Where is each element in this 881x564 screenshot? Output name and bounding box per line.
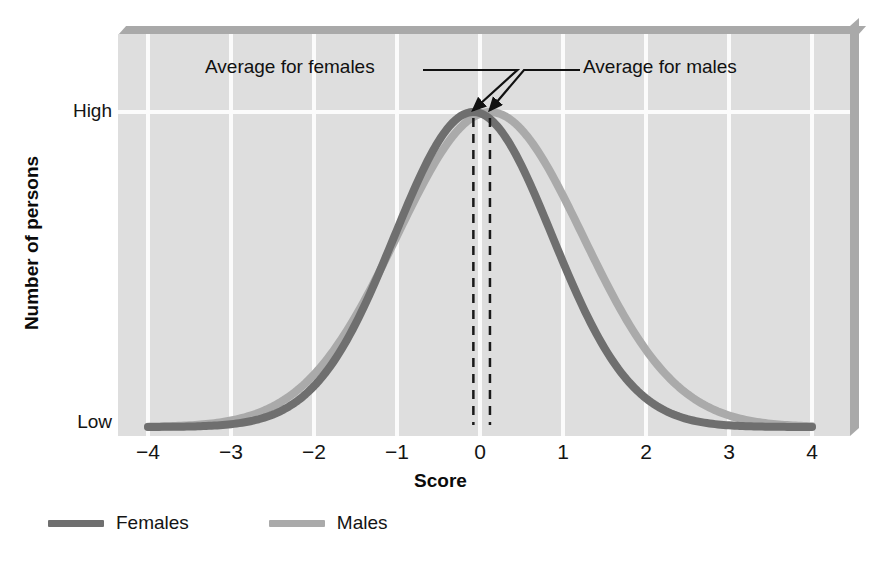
x-tick-label: −1 (367, 440, 427, 464)
x-tick-label: 0 (450, 440, 510, 464)
curve-females (148, 112, 812, 427)
x-tick-label: 1 (533, 440, 593, 464)
panel-right-shadow (850, 18, 859, 436)
leader-line-males (490, 70, 580, 110)
y-tick-label-low: Low (0, 411, 112, 433)
leader-line-females (423, 70, 517, 110)
x-tick-label: 3 (699, 440, 759, 464)
legend-item-females: Females (48, 512, 189, 534)
legend-swatch-females (48, 520, 104, 527)
legend-label-males: Males (337, 512, 388, 534)
x-tick-label: −3 (201, 440, 261, 464)
legend-label-females: Females (116, 512, 189, 534)
x-tick-label: 2 (616, 440, 676, 464)
score-distribution-chart: Average for females Average for males Hi… (0, 0, 881, 564)
y-axis-title: Number of persons (21, 128, 43, 358)
legend-swatch-males (269, 520, 325, 527)
x-tick-label: 4 (782, 440, 842, 464)
x-axis-title: Score (0, 470, 881, 492)
x-tick-label: −2 (284, 440, 344, 464)
legend-item-males: Males (269, 512, 388, 534)
plot-area: Average for females Average for males (118, 34, 850, 436)
annotation-label-females: Average for females (205, 56, 375, 78)
legend: Females Males (48, 512, 388, 534)
curves-svg (118, 34, 850, 436)
x-tick-label: −4 (118, 440, 178, 464)
curve-males (148, 112, 812, 427)
y-tick-label-high: High (0, 100, 112, 122)
annotation-label-males: Average for males (583, 56, 737, 78)
